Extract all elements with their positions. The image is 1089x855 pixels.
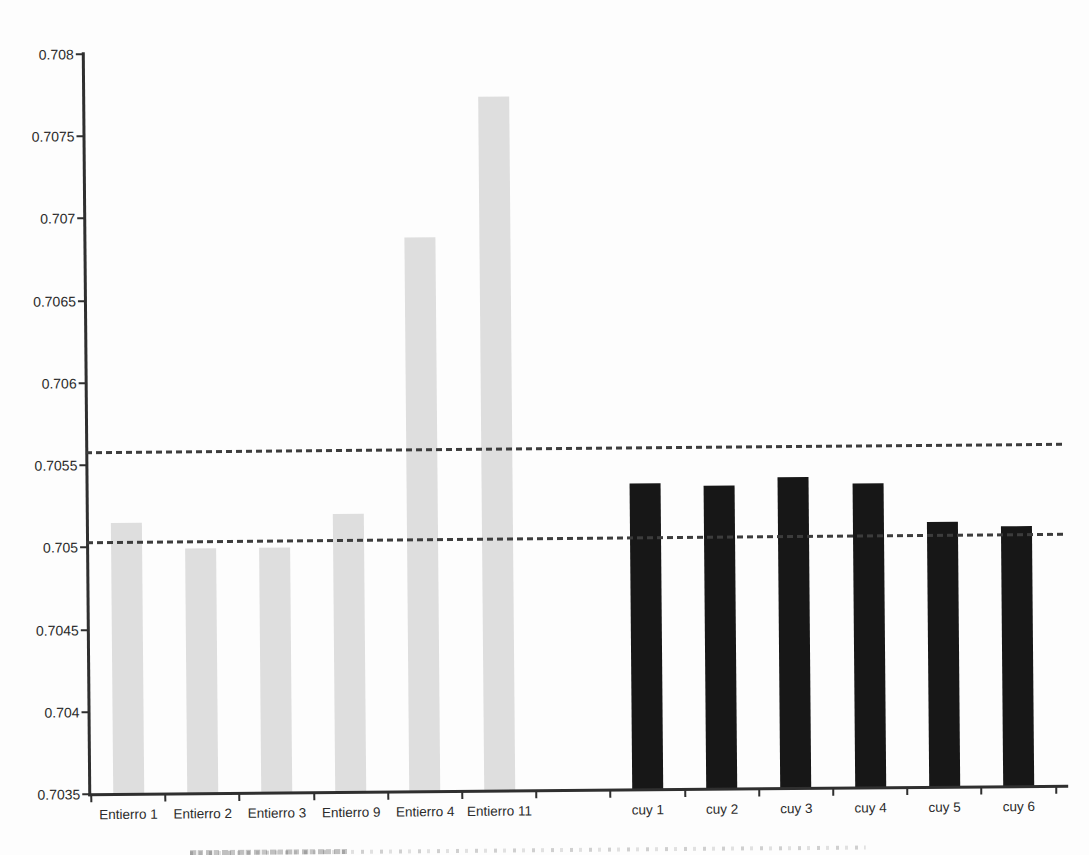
bar-entierro-2 bbox=[185, 548, 218, 793]
y-axis-tick bbox=[76, 135, 83, 137]
y-axis-tick-label: 0.708 bbox=[0, 45, 74, 64]
x-axis-tick bbox=[684, 790, 686, 797]
scan-tilt-wrapper: 0.7080.70750.7070.70650.7060.70550.7050.… bbox=[0, 0, 1089, 855]
reference-upper-dashed-line bbox=[86, 443, 1063, 454]
bar-cuy-2 bbox=[704, 486, 738, 789]
bar-cuy-4 bbox=[852, 483, 886, 787]
scanned-figure-page: 0.7080.70750.7070.70650.7060.70550.7050.… bbox=[0, 0, 1089, 855]
x-axis-tick bbox=[758, 789, 760, 796]
x-axis-tick bbox=[387, 793, 389, 800]
bar-entierro-11 bbox=[478, 97, 515, 791]
x-axis-tick bbox=[832, 789, 834, 796]
y-axis-tick bbox=[80, 547, 87, 549]
y-axis-tick-label: 0.7055 bbox=[0, 456, 77, 475]
x-axis-tick bbox=[610, 791, 612, 798]
y-axis-tick bbox=[81, 629, 88, 631]
x-axis-label-entierro-11: Entierro 11 bbox=[454, 802, 544, 821]
y-axis-tick-label: 0.704 bbox=[2, 703, 79, 722]
y-axis-tick-label: 0.707 bbox=[0, 210, 75, 229]
bar-cuy-6 bbox=[1001, 526, 1034, 786]
bar-cuy-3 bbox=[778, 477, 812, 788]
x-axis-tick bbox=[313, 793, 315, 800]
cropped-caption-figure-word-fragment bbox=[190, 849, 350, 855]
x-axis-line bbox=[88, 785, 1068, 796]
y-axis-tick-label: 0.7045 bbox=[2, 621, 79, 640]
bar-entierro-1 bbox=[110, 522, 143, 794]
x-axis-tick bbox=[239, 794, 241, 801]
y-axis-tick bbox=[82, 711, 89, 713]
strontium-ratio-bar-chart: 0.7080.70750.7070.70650.7060.70550.7050.… bbox=[0, 0, 1089, 855]
y-axis-tick-label: 0.705 bbox=[1, 539, 78, 558]
x-axis-tick bbox=[981, 787, 983, 794]
y-axis-tick-label: 0.7065 bbox=[0, 292, 76, 311]
x-axis-tick bbox=[461, 792, 463, 799]
reference-lower-dashed-line bbox=[87, 533, 1064, 544]
x-axis-label-cuy-6: cuy 6 bbox=[974, 798, 1064, 817]
y-axis-tick bbox=[78, 300, 85, 302]
x-axis-tick bbox=[164, 795, 166, 802]
bar-entierro-4 bbox=[405, 237, 441, 791]
y-axis-line bbox=[82, 52, 91, 796]
x-axis-tick bbox=[1055, 787, 1057, 794]
x-axis-tick bbox=[90, 795, 92, 802]
x-axis-tick bbox=[535, 791, 537, 798]
y-axis-tick-label: 0.7035 bbox=[3, 785, 80, 804]
y-axis-tick bbox=[79, 382, 86, 384]
y-axis-tick-label: 0.7075 bbox=[0, 128, 75, 147]
x-axis-tick bbox=[906, 788, 908, 795]
bar-entierro-3 bbox=[259, 547, 292, 792]
y-axis-tick bbox=[79, 464, 86, 466]
y-axis-tick bbox=[76, 53, 83, 55]
y-axis-tick bbox=[82, 793, 89, 795]
bar-cuy-5 bbox=[927, 522, 960, 787]
y-axis-tick-label: 0.706 bbox=[0, 374, 77, 393]
bar-entierro-9 bbox=[333, 514, 366, 792]
y-axis-tick bbox=[77, 218, 84, 220]
bar-cuy-1 bbox=[630, 483, 664, 789]
